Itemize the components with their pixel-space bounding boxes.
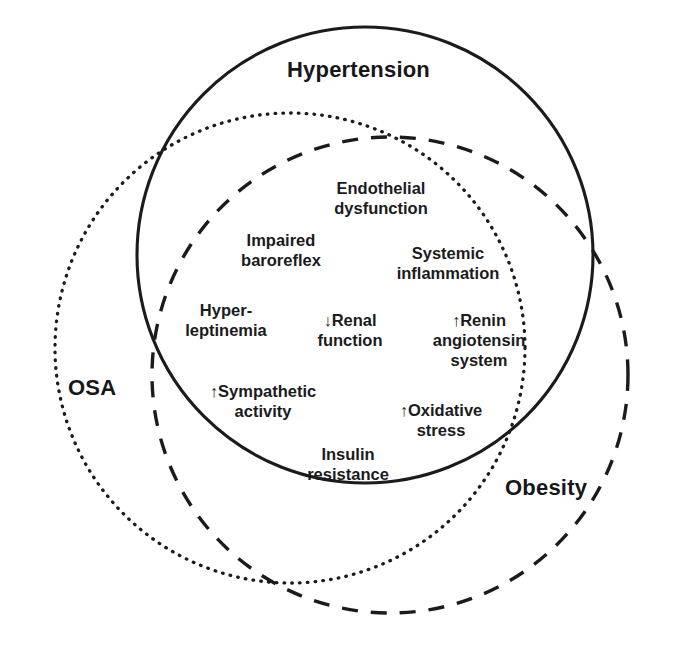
factor-line: Systemic: [397, 243, 500, 263]
factor-systemic-inflammation: Systemic inflammation: [397, 243, 500, 283]
factor-line: activity: [210, 401, 316, 421]
factor-line: baroreflex: [241, 250, 321, 270]
factor-line: Insulin: [307, 444, 389, 464]
factor-insulin-resistance: Insulin resistance: [307, 444, 389, 484]
factor-line: system: [433, 350, 526, 370]
factor-line: ↑Renin: [433, 310, 526, 330]
set-label-osa: OSA: [68, 376, 116, 400]
factor-line: ↓Renal: [317, 310, 382, 330]
factor-line: ↑Oxidative: [400, 400, 483, 420]
factor-line: function: [317, 330, 382, 350]
factor-line: resistance: [307, 464, 389, 484]
factor-line: stress: [400, 420, 483, 440]
factor-endothelial-dysfunction: Endothelial dysfunction: [334, 178, 428, 218]
factor-line: inflammation: [397, 263, 500, 283]
set-label-hypertension: Hypertension: [287, 58, 430, 82]
circle-hypertension: [137, 27, 593, 483]
factor-line: Hyper-: [185, 300, 267, 320]
factor-renal-function: ↓Renal function: [317, 310, 382, 350]
venn-diagram-figure: Hypertension OSA Obesity Endothelial dys…: [0, 0, 698, 645]
factor-renin-angiotensin-system: ↑Renin angiotensin system: [433, 310, 526, 370]
factor-line: ↑Sympathetic: [210, 381, 316, 401]
factor-line: dysfunction: [334, 198, 428, 218]
factor-line: Impaired: [241, 230, 321, 250]
set-label-obesity: Obesity: [505, 476, 587, 500]
factor-oxidative-stress: ↑Oxidative stress: [400, 400, 483, 440]
factor-line: angiotensin: [433, 330, 526, 350]
factor-hyperleptinemia: Hyper- leptinemia: [185, 300, 267, 340]
factor-line: leptinemia: [185, 320, 267, 340]
factor-line: Endothelial: [334, 178, 428, 198]
factor-sympathetic-activity: ↑Sympathetic activity: [210, 381, 316, 421]
factor-impaired-baroreflex: Impaired baroreflex: [241, 230, 321, 270]
